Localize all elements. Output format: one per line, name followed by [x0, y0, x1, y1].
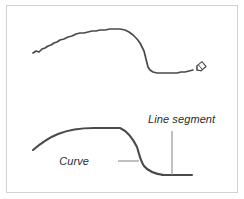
sketch-curve-group [33, 29, 193, 73]
pencil-icon [195, 62, 206, 73]
smooth-curve [33, 128, 164, 175]
figure-root: Curve Line segment [0, 0, 244, 199]
line-segment-annotation: Line segment [148, 113, 216, 175]
curve-annotation: Curve [59, 155, 139, 167]
curve-label: Curve [59, 155, 89, 167]
freehand-sketch-curve [33, 29, 193, 73]
line-segment-label: Line segment [148, 113, 216, 125]
smooth-curve-group [33, 128, 192, 175]
diagram-canvas: Curve Line segment [0, 0, 244, 199]
